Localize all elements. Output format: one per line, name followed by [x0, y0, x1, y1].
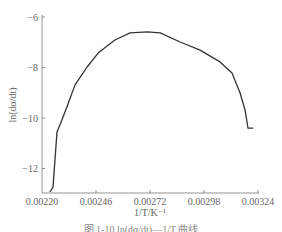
x-axis-label: 1/T/K⁻¹: [134, 207, 166, 218]
y-axis-label: ln(dα/dt): [7, 87, 19, 122]
x-tick-label: 0.00220: [26, 196, 59, 207]
y-tick-label: −12: [22, 163, 38, 174]
y-tick-label: −6: [27, 12, 38, 23]
y-tick-label: −10: [22, 113, 38, 124]
x-ticks: 0.002200.002460.002720.002980.00324: [26, 190, 275, 207]
x-tick-label: 0.00298: [188, 196, 221, 207]
figure-caption: 图 1-10 ln(dα/dt)—1/T 曲线: [0, 221, 282, 232]
data-line: [50, 32, 253, 192]
x-tick-label: 0.00246: [80, 196, 113, 207]
y-tick-label: −8: [27, 62, 38, 73]
line-chart: −6−8−10−12 0.002200.002460.002720.002980…: [0, 0, 282, 232]
x-tick-label: 0.00272: [134, 196, 167, 207]
x-tick-label: 0.00324: [242, 196, 275, 207]
